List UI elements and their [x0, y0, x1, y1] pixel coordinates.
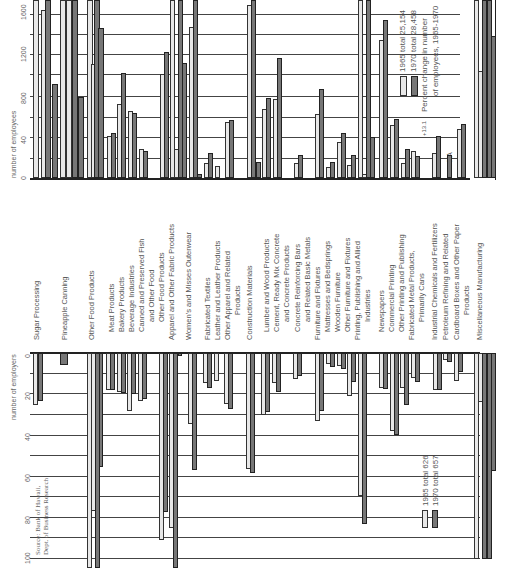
source-line-1: Source: Bank of Hawaii,: [34, 486, 42, 555]
label-sugar-processing: Sugar Processing: [32, 281, 41, 340]
bar-1970: [266, 98, 271, 178]
bar-1970: [182, 63, 187, 178]
bar-1970: [173, 353, 178, 568]
bar-1970: [447, 353, 452, 362]
bar-1970: [192, 353, 197, 470]
legend-swatch-1965: [400, 76, 407, 96]
label-leather: Leather and Leather Products: [213, 241, 222, 340]
bar-1970: [251, 0, 256, 178]
legend-swatch-1970: [432, 510, 438, 528]
bar-1970: [111, 133, 116, 178]
bar-1970: [405, 149, 410, 178]
label-cardboard-cont: Products: [462, 285, 471, 315]
bar-1970: [164, 52, 169, 178]
bar-1970: [78, 97, 84, 178]
employers-chart: 0 20 40 60 80 100 number of employers So…: [0, 340, 508, 568]
tick-40: 40: [20, 136, 27, 144]
source-line-2: Dept. of Business Research: [42, 478, 50, 555]
tick-0: 0: [24, 354, 31, 358]
label-bakery-products: Bakery Products: [117, 277, 126, 332]
bar-1970: [383, 20, 388, 178]
label-other-apparel: Other Apparel and Related: [223, 251, 232, 340]
legend-swatch-1970: [411, 76, 418, 96]
bar-1965: [215, 166, 220, 178]
legend-1965-label: 1965 total 25,154: [398, 10, 407, 72]
label-other-furniture: Other Furniture and Fixtures: [343, 238, 352, 332]
bar-1970: [121, 73, 126, 178]
label-lumber: Lumber and Wood Products: [262, 239, 271, 332]
bar-1970: [45, 0, 51, 178]
bar-1970: [436, 136, 441, 178]
legend-note-1: Percent change in number: [420, 18, 429, 112]
label-commercial-printing: Commercial Printing: [387, 264, 396, 332]
label-meat-products: Meat Products: [107, 284, 116, 332]
tick-1200: 1200: [20, 46, 27, 62]
bar-1970: [330, 162, 335, 178]
bar-1970: [256, 162, 261, 178]
bar-1970: [415, 353, 420, 382]
bar-1970: [178, 353, 182, 356]
bar-1970: [341, 133, 346, 178]
bar-1970: [491, 353, 496, 471]
bar-1970: [394, 119, 399, 178]
bar-1965: [358, 0, 363, 178]
label-newspapers: Newspapers: [377, 290, 386, 332]
bar-1970: [250, 353, 255, 473]
bar-1970: [319, 353, 324, 411]
label-fabricated-metal-cont: Primarily Cans: [417, 273, 426, 322]
employees-chart: 0 40 800 1200 1600 number of employees: [0, 0, 508, 180]
tick-40: 40: [24, 433, 31, 441]
bar-1970: [99, 353, 103, 467]
bar-1970: [330, 353, 335, 367]
bar-1970: [208, 153, 213, 178]
bar-1970: [276, 353, 281, 392]
bar-1970: [415, 156, 420, 178]
bar-1970: [193, 0, 198, 178]
bar-1970: [297, 353, 302, 376]
bar-1970: [228, 353, 233, 409]
label-other-food-products-2: Other Food Products: [157, 252, 166, 322]
label-concrete-bars-cont: and Related Basic Metals: [303, 237, 312, 322]
label-construction-materials: Construction Materials: [245, 265, 254, 340]
bar-1970: [110, 353, 115, 390]
label-canned-fish: Canned and Preserved Fish: [137, 239, 146, 332]
legend-swatch-1965: [422, 510, 428, 528]
bar-1970: [298, 155, 303, 178]
tick-800: 800: [20, 92, 27, 104]
bar-1970: [52, 84, 58, 178]
label-womens-outerwear: Women's and Misses Outerwear: [184, 232, 193, 340]
bar-1970: [121, 353, 126, 393]
bar-1970: [341, 353, 346, 369]
label-industrial-chemicals: Industrial Chemicals and Fertilizers: [430, 223, 439, 340]
legend-note-2: of employees, 1965-1970: [431, 6, 440, 96]
label-cardboard: Cardboard Boxes and Other Paper: [452, 224, 461, 340]
tick-20: 20: [24, 392, 31, 400]
bar-1970: [229, 120, 234, 178]
label-wooden-furniture: Wooden Furniture: [333, 272, 342, 332]
bottom-axis-title: number of employers: [10, 354, 17, 420]
bar-1970: [404, 353, 409, 405]
bar-1970: [383, 353, 388, 389]
tick-1600: 1600: [20, 4, 27, 20]
label-mattresses: Mattresses and Bedsprings: [323, 241, 332, 332]
tick-60: 60: [24, 474, 31, 482]
bar-1970: [351, 155, 356, 178]
label-cement: Cement, Ready Mix Concrete: [272, 234, 281, 332]
label-pineapple-canning: Pineapple Canning: [60, 277, 69, 340]
bar-1970: [131, 353, 136, 394]
label-furniture: Furniture and Fixtures: [313, 267, 322, 340]
label-other-printing: Other Printing and Publishing: [397, 234, 406, 332]
bar-1970: [197, 174, 202, 178]
label-printing-cont: Industries: [363, 289, 372, 322]
bar-1970: [38, 353, 43, 401]
tick-100: 100: [24, 552, 31, 564]
category-labels: Sugar Processing Pineapple Canning Other…: [0, 180, 508, 345]
legend-marker: +13.1: [421, 121, 427, 136]
bar-1970: [98, 28, 104, 178]
label-petroleum: Petroleum Refining and Related: [441, 234, 450, 340]
bar-1970: [207, 353, 212, 388]
tick-80: 80: [24, 516, 31, 524]
label-apparel: Apparel and Other Fabric Products: [167, 224, 176, 340]
bar-1970: [132, 113, 137, 178]
legend-1965-label: 1965 total 626: [421, 455, 430, 506]
